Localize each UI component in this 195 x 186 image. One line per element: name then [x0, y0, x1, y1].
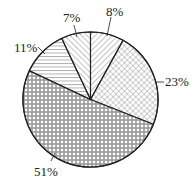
slice-label-51: 51% [34, 164, 58, 179]
pie-chart: 8% 23% 51% 11% 7% [0, 0, 195, 186]
slice-label-8: 8% [106, 4, 124, 19]
leader-line-8 [107, 17, 111, 36]
slice-label-7: 7% [63, 10, 81, 25]
slice-label-11: 11% [14, 40, 38, 55]
slice-label-23: 23% [165, 74, 189, 89]
